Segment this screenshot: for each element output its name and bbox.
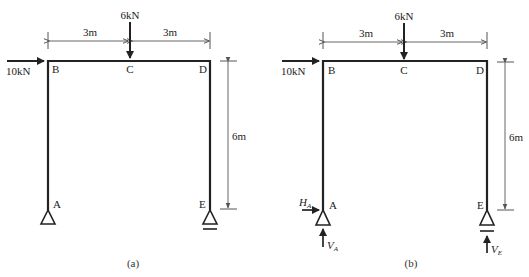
node-label-d: D: [476, 64, 484, 76]
right-span-label: 3m: [163, 26, 178, 38]
reaction-va-label: VA: [327, 239, 339, 253]
node-label-b: B: [328, 64, 335, 76]
vertical-load-label: 6kN: [395, 10, 414, 22]
node-label-e: E: [199, 198, 206, 210]
figure-b: 3m 3m 6kN 10kN B C D A E 6m: [281, 10, 524, 270]
horizontal-load-label: 10kN: [6, 65, 31, 77]
horizontal-load: 10kN: [281, 61, 319, 77]
figure-caption-b: (b): [405, 257, 418, 270]
reaction-ha: HA: [298, 196, 319, 210]
height-dimension: 6m: [497, 62, 524, 210]
reaction-va: VA: [323, 229, 339, 253]
frame-diagram: 3m 3m 6kN 10kN B C D A E 6m: [0, 0, 529, 277]
node-label-d: D: [199, 63, 207, 75]
node-label-a: A: [53, 198, 61, 210]
height-dimension: 6m: [220, 61, 247, 209]
frame-members: [323, 61, 487, 210]
node-label-c: C: [126, 63, 133, 75]
roller-support-icon: [203, 210, 217, 229]
horizontal-load: 10kN: [6, 61, 44, 77]
height-label: 6m: [509, 131, 524, 143]
vertical-load: 6kN: [395, 10, 414, 59]
vertical-load-label: 6kN: [121, 9, 140, 21]
node-label-e: E: [477, 199, 484, 211]
node-label-c: C: [400, 64, 407, 76]
left-span-label: 3m: [359, 27, 374, 39]
pin-support-icon: [316, 210, 330, 225]
pin-support-icon: [41, 210, 55, 224]
left-span-label: 3m: [83, 26, 98, 38]
reaction-ve-label: VE: [491, 243, 503, 257]
roller-support-icon: [480, 210, 494, 231]
vertical-load: 6kN: [121, 9, 140, 58]
height-label: 6m: [232, 130, 247, 142]
frame-members: [48, 61, 210, 210]
figure-a: 3m 3m 6kN 10kN B C D A E 6m: [6, 9, 247, 270]
reaction-ve: VE: [487, 236, 503, 257]
figure-caption-a: (a): [127, 257, 140, 270]
horizontal-load-label: 10kN: [281, 65, 306, 77]
right-span-label: 3m: [440, 27, 455, 39]
node-label-a: A: [329, 199, 337, 211]
node-label-b: B: [52, 63, 59, 75]
reaction-ha-label: HA: [298, 196, 312, 210]
